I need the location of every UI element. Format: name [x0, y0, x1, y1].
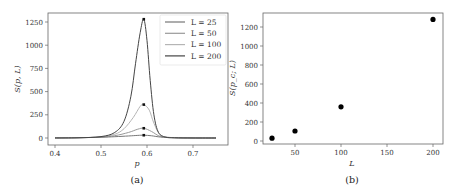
x-tick-label: 100: [334, 149, 347, 157]
x-tick-label: 0.4: [49, 150, 61, 158]
x-tick-label: 150: [380, 149, 393, 157]
y-tick-label: 1000: [240, 43, 258, 51]
scatter-point: [292, 128, 297, 133]
y-tick-label: 250: [30, 111, 43, 119]
y-tick-label: 1200: [240, 24, 258, 32]
figure: 025050075010001250 0.40.50.60.7 L = 25L …: [0, 0, 458, 192]
curve-L50: [55, 128, 216, 138]
panel-b-y-ticks: 020040060080010001200: [240, 24, 263, 146]
x-tick-label: 0.7: [187, 150, 198, 158]
panel-a-peak-markers: [142, 18, 145, 137]
y-tick-label: 400: [245, 100, 258, 108]
panel-b-axes-frame: [263, 13, 443, 144]
y-tick-label: 0: [254, 138, 258, 146]
panel-a-chart: 025050075010001250 0.40.50.60.7 L = 25L …: [13, 13, 228, 185]
scatter-point: [430, 17, 435, 22]
panel-b-y-label: S(p_c; L): [228, 60, 237, 96]
y-tick-label: 1000: [25, 42, 43, 50]
peak-marker: [142, 103, 145, 106]
panel-a-x-label: p: [134, 159, 139, 168]
panel-a-y-label: S(p, L): [13, 65, 22, 92]
panel-b-scatter-points: [269, 17, 435, 141]
y-tick-label: 600: [245, 81, 258, 89]
peak-marker: [142, 127, 145, 130]
scatter-point: [269, 136, 274, 141]
y-tick-label: 200: [245, 119, 258, 127]
panel-b-x-label: L: [348, 159, 354, 168]
panel-b-x-ticks: 50100150200: [291, 144, 440, 157]
panel-a-x-ticks: 0.40.50.60.7: [49, 145, 198, 158]
peak-marker: [142, 134, 145, 137]
curve-L100: [55, 104, 216, 138]
panel-a-legend: L = 25L = 50L = 100L = 200: [160, 15, 226, 65]
y-tick-label: 800: [245, 62, 258, 70]
legend-label: L = 25: [191, 18, 217, 27]
x-tick-label: 0.6: [141, 150, 153, 158]
x-tick-label: 200: [426, 149, 439, 157]
legend-label: L = 200: [191, 52, 222, 61]
panel-b-caption: (b): [345, 174, 359, 185]
scatter-point: [338, 104, 343, 109]
x-tick-label: 50: [291, 149, 300, 157]
y-tick-label: 500: [30, 88, 43, 96]
y-tick-label: 750: [30, 65, 43, 73]
y-tick-label: 0: [39, 135, 43, 143]
panel-a-caption: (a): [130, 174, 143, 185]
peak-marker: [142, 18, 145, 21]
legend-label: L = 100: [191, 40, 222, 49]
panel-b-chart: 020040060080010001200 50100150200 S(p_c;…: [228, 13, 443, 185]
legend-label: L = 50: [191, 29, 217, 38]
x-tick-label: 0.5: [95, 150, 106, 158]
y-tick-label: 1250: [25, 19, 43, 27]
panel-a-y-ticks: 025050075010001250: [25, 19, 48, 143]
